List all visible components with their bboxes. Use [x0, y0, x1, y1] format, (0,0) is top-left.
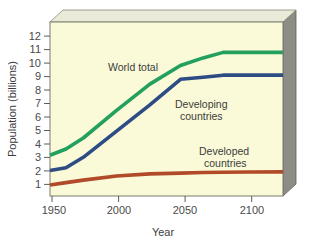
y-tick-label-5: 5 [35, 124, 41, 136]
y-axis-title: Population (billions) [6, 61, 18, 157]
annotation-developed-line2: countries [204, 157, 247, 169]
y-tick-label-3: 3 [35, 151, 41, 163]
slab-right-face [283, 10, 296, 196]
x-tick-label-2100: 2100 [240, 204, 264, 216]
y-tick-label-6: 6 [35, 111, 41, 123]
chart-canvas: 12 11 10 9 8 7 6 5 4 3 2 1 Population (b… [0, 0, 313, 250]
y-tick-label-9: 9 [35, 70, 41, 82]
y-tick-label-10: 10 [29, 57, 41, 69]
x-tick-label-2050: 2050 [173, 204, 197, 216]
x-axis-ticks [52, 196, 252, 202]
y-axis-ticks [44, 36, 50, 184]
y-tick-label-7: 7 [35, 97, 41, 109]
y-tick-label-8: 8 [35, 84, 41, 96]
x-tick-label-1950: 1950 [42, 204, 66, 216]
y-tick-label-2: 2 [35, 165, 41, 177]
annotation-developing-line1: Developing [175, 98, 228, 110]
x-axis-title: Year [152, 226, 175, 238]
annotation-world-total: World total [108, 61, 158, 73]
x-tick-label-2000: 2000 [107, 204, 131, 216]
y-tick-label-1: 1 [35, 178, 41, 190]
y-tick-label-12: 12 [29, 30, 41, 42]
y-tick-label-4: 4 [35, 138, 41, 150]
y-tick-label-11: 11 [30, 43, 41, 55]
population-chart: 12 11 10 9 8 7 6 5 4 3 2 1 Population (b… [0, 0, 313, 250]
plot-area-background [50, 22, 283, 196]
annotation-developed-line1: Developed [199, 145, 249, 157]
slab-top-face [50, 10, 296, 22]
annotation-developing-line2: countries [180, 110, 223, 122]
